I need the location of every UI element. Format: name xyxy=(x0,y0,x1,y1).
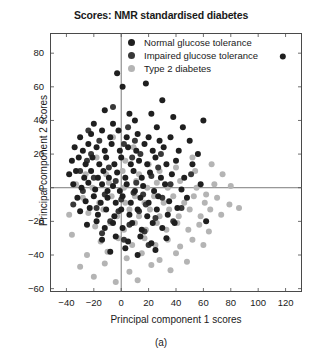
x-axis-label: Principal component 1 scores xyxy=(50,314,302,325)
legend-item-normal[interactable]: Normal glucose tolerance xyxy=(128,36,258,48)
y-tick-label: −40 xyxy=(14,249,44,260)
legend-item-type2[interactable]: Type 2 diabetes xyxy=(128,62,258,74)
y-tick-label: 60 xyxy=(14,81,44,92)
x-tick-label: 120 xyxy=(269,297,303,308)
legend-label-type2: Type 2 diabetes xyxy=(144,63,211,74)
legend-label-normal: Normal glucose tolerance xyxy=(144,37,252,48)
legend-marker-impaired-icon xyxy=(128,52,135,59)
page-title: Scores: NMR standardised diabetes xyxy=(0,9,322,21)
legend-label-impaired: Impaired glucose tolerance xyxy=(144,50,258,61)
figure-caption: (a) xyxy=(0,337,322,348)
legend: Normal glucose tolerance Impaired glucos… xyxy=(128,36,258,74)
legend-marker-type2-icon xyxy=(128,65,135,72)
y-tick-label: −60 xyxy=(14,283,44,294)
y-tick-label: 20 xyxy=(14,148,44,159)
y-tick-label: 40 xyxy=(14,114,44,125)
y-tick-label: −20 xyxy=(14,215,44,226)
legend-marker-normal-icon xyxy=(128,39,135,46)
y-tick-label: 80 xyxy=(14,47,44,58)
y-tick-label: 0 xyxy=(14,182,44,193)
figure-container: Scores: NMR standardised diabetes Normal… xyxy=(0,0,322,358)
legend-item-impaired[interactable]: Impaired glucose tolerance xyxy=(128,49,258,61)
